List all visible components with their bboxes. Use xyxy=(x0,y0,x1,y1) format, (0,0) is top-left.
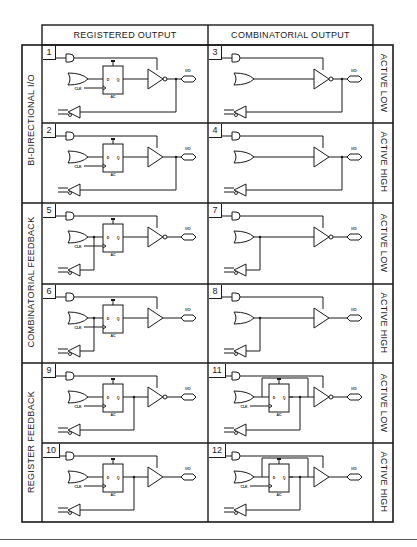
header-registered-output: REGISTERED OUTPUT xyxy=(42,25,208,45)
group-label-bidirectional-io: BI-DIRECTIONAL I/O xyxy=(26,40,38,200)
svg-text:CLK: CLK xyxy=(74,245,82,249)
io-pin-label: I/O xyxy=(185,68,190,73)
svg-text:Q: Q xyxy=(283,396,286,400)
io-pin-label: I/O xyxy=(185,307,190,312)
io-pin-label: I/O xyxy=(351,226,356,231)
macrocell-schematic-6: I/ODQACCLK xyxy=(53,293,196,357)
macrocell-schematic-1: I/ODQACCLK xyxy=(53,54,196,118)
cell-number-7: 7 xyxy=(209,204,222,218)
macrocell-schematic-2: I/ODQACCLK xyxy=(53,132,196,196)
io-pin-label: I/O xyxy=(185,466,190,471)
group-label-combinatorial-feedback: COMBINATORIAL FEEDBACK xyxy=(26,202,38,362)
polarity-label-row6: ACTIVE HIGH xyxy=(377,442,389,522)
io-pin-label: I/O xyxy=(185,146,190,151)
io-pin-label: I/O xyxy=(351,386,356,391)
macrocell-schematic-12: I/ODQACCLK xyxy=(219,452,362,516)
cell-number-4: 4 xyxy=(209,124,222,138)
cell-number-6: 6 xyxy=(43,285,56,299)
io-pin-label: I/O xyxy=(351,68,356,73)
svg-text:Q: Q xyxy=(117,317,120,321)
io-pin-label: I/O xyxy=(351,307,356,312)
polarity-label-row4: ACTIVE HIGH xyxy=(377,283,389,363)
cell-number-1: 1 xyxy=(43,46,56,60)
io-pin-label: I/O xyxy=(351,466,356,471)
cell-number-8: 8 xyxy=(209,285,222,299)
cell-number-9: 9 xyxy=(43,364,56,378)
diagram-grid: I/ODQACCLKI/OI/ODQACCLKI/OI/ODQACCLKI/OI… xyxy=(0,0,417,547)
macrocell-schematic-3: I/O xyxy=(219,54,362,118)
svg-text:AC: AC xyxy=(110,253,116,257)
polarity-label-row3: ACTIVE LOW xyxy=(377,203,389,283)
svg-text:AC: AC xyxy=(110,173,116,177)
svg-text:CLK: CLK xyxy=(74,87,82,91)
svg-text:AC: AC xyxy=(276,493,282,497)
svg-text:Q: Q xyxy=(117,476,120,480)
macrocell-schematic-9: I/ODQACCLK xyxy=(53,372,196,436)
svg-text:CLK: CLK xyxy=(74,485,82,489)
cell-number-10: 10 xyxy=(43,444,60,458)
svg-text:AC: AC xyxy=(276,413,282,417)
cell-number-2: 2 xyxy=(43,124,56,138)
header-combinatorial-output: COMBINATORIAL OUTPUT xyxy=(208,25,373,45)
svg-text:CLK: CLK xyxy=(74,405,82,409)
group-label-register-feedback: REGISTER FEEDBACK xyxy=(26,362,38,522)
macrocell-schematic-7: I/O xyxy=(219,212,362,276)
svg-text:CLK: CLK xyxy=(74,165,82,169)
polarity-label-row5: ACTIVE LOW xyxy=(377,363,389,443)
svg-text:Q: Q xyxy=(117,236,120,240)
macrocell-schematic-11: I/ODQACCLK xyxy=(219,372,362,436)
cell-number-5: 5 xyxy=(43,204,56,218)
macrocell-schematic-5: I/ODQACCLK xyxy=(53,212,196,276)
macrocell-schematic-8: I/O xyxy=(219,293,362,357)
macrocell-schematic-10: I/ODQACCLK xyxy=(53,452,196,516)
svg-text:AC: AC xyxy=(110,493,116,497)
svg-text:AC: AC xyxy=(110,334,116,338)
cell-number-11: 11 xyxy=(209,364,226,378)
svg-text:Q: Q xyxy=(117,156,120,160)
io-pin-label: I/O xyxy=(185,226,190,231)
polarity-label-row1: ACTIVE LOW xyxy=(377,43,389,123)
svg-text:AC: AC xyxy=(110,413,116,417)
svg-text:Q: Q xyxy=(117,78,120,82)
svg-text:Q: Q xyxy=(117,396,120,400)
svg-text:CLK: CLK xyxy=(240,485,248,489)
footer-divider xyxy=(0,539,417,540)
io-pin-label: I/O xyxy=(185,386,190,391)
svg-text:CLK: CLK xyxy=(74,326,82,330)
polarity-label-row2: ACTIVE HIGH xyxy=(377,122,389,202)
macrocell-schematic-4: I/O xyxy=(219,132,362,196)
svg-text:AC: AC xyxy=(110,95,116,99)
svg-text:Q: Q xyxy=(283,476,286,480)
io-pin-label: I/O xyxy=(351,146,356,151)
cell-number-12: 12 xyxy=(209,444,226,458)
svg-text:CLK: CLK xyxy=(240,405,248,409)
cell-number-3: 3 xyxy=(209,46,222,60)
